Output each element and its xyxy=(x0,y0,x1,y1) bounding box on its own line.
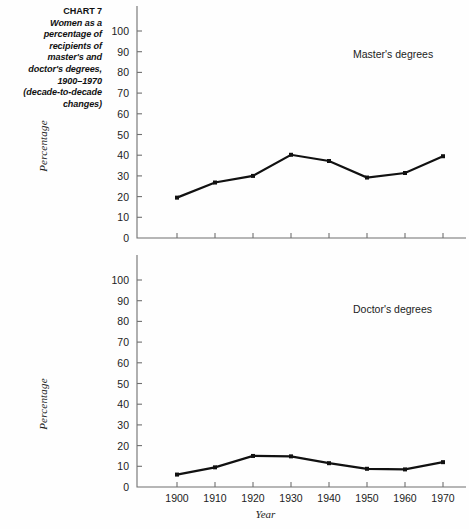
y-tick-label: 90 xyxy=(117,46,129,58)
data-point-marker xyxy=(175,196,179,200)
x-tick-label: 1930 xyxy=(279,492,303,504)
x-axis-title: Year xyxy=(0,508,469,520)
masters-degrees-plot: 0102030405060708090100 xyxy=(0,0,469,258)
x-tick-label: 1910 xyxy=(203,492,227,504)
data-point-marker xyxy=(365,467,369,471)
y-tick-label: 80 xyxy=(117,66,129,78)
y-tick-label: 100 xyxy=(111,25,129,37)
data-series-line xyxy=(177,155,443,198)
data-point-marker xyxy=(403,467,407,471)
chart-page: CHART 7 Women as a percentage of recipie… xyxy=(0,0,469,529)
data-point-marker xyxy=(327,159,331,163)
data-point-marker xyxy=(441,154,445,158)
data-point-marker xyxy=(213,181,217,185)
x-axis-title-text: Year xyxy=(256,508,276,520)
series-label-masters: Master's degrees xyxy=(353,48,433,60)
y-tick-label: 50 xyxy=(117,378,129,390)
y-tick-label: 60 xyxy=(117,108,129,120)
y-tick-label: 10 xyxy=(117,211,129,223)
y-tick-label: 80 xyxy=(117,315,129,327)
y-tick-label: 60 xyxy=(117,357,129,369)
data-point-marker xyxy=(213,465,217,469)
data-point-marker xyxy=(365,176,369,180)
y-tick-label: 20 xyxy=(117,440,129,452)
y-tick-label: 40 xyxy=(117,149,129,161)
data-point-marker xyxy=(251,454,255,458)
x-tick-label: 1960 xyxy=(393,492,417,504)
x-tick-label: 1920 xyxy=(241,492,265,504)
y-tick-label: 30 xyxy=(117,170,129,182)
chart-panel-masters: 0102030405060708090100 xyxy=(0,0,469,258)
y-tick-label: 30 xyxy=(117,419,129,431)
y-tick-label: 50 xyxy=(117,129,129,141)
y-axis-label-doctors: Percentage xyxy=(37,354,49,454)
data-point-marker xyxy=(175,473,179,477)
y-tick-label: 0 xyxy=(123,232,129,244)
y-tick-label: 40 xyxy=(117,398,129,410)
y-tick-label: 90 xyxy=(117,295,129,307)
y-axis-label-masters: Percentage xyxy=(37,96,49,196)
y-tick-label: 70 xyxy=(117,336,129,348)
data-series-line xyxy=(177,456,443,475)
y-tick-label: 10 xyxy=(117,460,129,472)
doctors-degrees-plot: 0102030405060708090100190019101920193019… xyxy=(0,255,469,529)
x-tick-label: 1940 xyxy=(317,492,341,504)
data-point-marker xyxy=(327,461,331,465)
data-point-marker xyxy=(441,460,445,464)
x-tick-label: 1900 xyxy=(165,492,189,504)
data-point-marker xyxy=(251,174,255,178)
data-point-marker xyxy=(289,454,293,458)
y-tick-label: 0 xyxy=(123,481,129,493)
series-label-doctors: Doctor's degrees xyxy=(353,303,432,315)
y-tick-label: 100 xyxy=(111,274,129,286)
x-tick-label: 1970 xyxy=(431,492,455,504)
y-tick-label: 70 xyxy=(117,87,129,99)
x-tick-label: 1950 xyxy=(355,492,379,504)
chart-panel-doctors: 0102030405060708090100190019101920193019… xyxy=(0,255,469,529)
data-point-marker xyxy=(289,153,293,157)
data-point-marker xyxy=(403,171,407,175)
y-tick-label: 20 xyxy=(117,191,129,203)
